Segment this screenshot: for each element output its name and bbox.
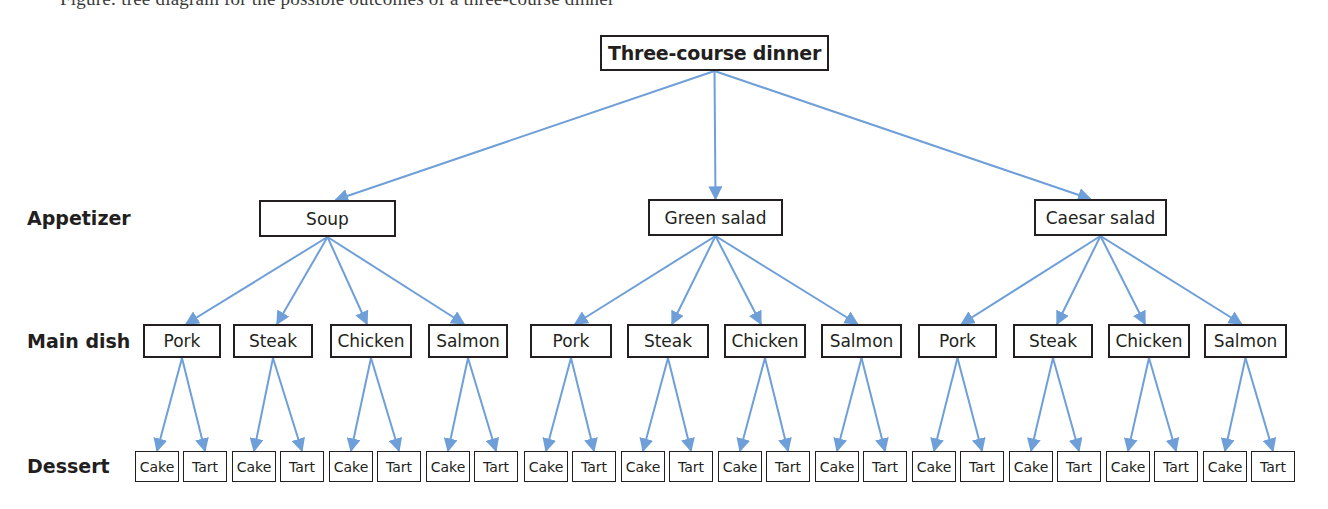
main-dish-node-steak: Steak [627,324,709,358]
dessert-node-tart: Tart [1057,451,1101,482]
appetizer-label: Soup [306,209,349,229]
appetizer-node-caesar-salad: Caesar salad [1034,199,1167,236]
arrow-connector [182,358,205,451]
main-dish-node-pork: Pork [143,324,221,358]
appetizer-node-green-salad: Green salad [648,199,783,236]
dessert-label: Tart [192,459,218,475]
arrow-connector [468,358,496,451]
arrow-connector [1101,236,1146,324]
dessert-label: Cake [820,459,855,475]
dessert-label: Cake [529,459,564,475]
arrow-connector [571,358,594,451]
arrow-connector [273,358,302,451]
arrow-connector [715,71,1091,199]
dessert-label: Tart [1163,459,1189,475]
arrow-connector [862,358,886,451]
arrow-connector [336,71,715,200]
dessert-label: Tart [872,459,898,475]
arrow-connector [962,236,1101,324]
main-dish-label: Chicken [1115,331,1182,351]
dessert-node-tart: Tart [863,451,907,482]
dessert-node-cake: Cake [621,451,665,482]
dessert-node-cake: Cake [135,451,179,482]
main-dish-label: Chicken [337,331,404,351]
appetizer-label: Caesar salad [1046,208,1156,228]
arrow-connector [1225,358,1246,451]
dessert-label: Tart [969,459,995,475]
arrow-connector [575,236,716,324]
dessert-label: Tart [678,459,704,475]
dessert-label: Cake [334,459,369,475]
main-dish-node-pork: Pork [530,324,612,358]
main-dish-label: Steak [1029,331,1077,351]
arrow-connectors [157,71,1273,451]
dessert-label: Cake [1208,459,1243,475]
arrow-connector [715,71,716,199]
arrow-connector [448,358,468,451]
main-dish-label: Chicken [731,331,798,351]
root-label: Three-course dinner [608,42,821,64]
arrow-connector [1031,358,1053,451]
appetizer-node-soup: Soup [259,200,396,237]
main-dish-label: Pork [939,331,976,351]
level-label-main-dish: Main dish [27,330,130,352]
main-dish-label: Salmon [830,331,894,351]
arrow-connector [254,358,273,451]
arrow-connector [157,358,182,451]
main-dish-label: Steak [249,331,297,351]
dessert-label: Cake [1111,459,1146,475]
main-dish-node-pork: Pork [918,324,997,358]
dessert-node-cake: Cake [524,451,568,482]
root-node-three-course-dinner: Three-course dinner [600,35,829,71]
arrow-connector [716,236,762,324]
dessert-label: Tart [581,459,607,475]
dessert-node-cake: Cake [232,451,276,482]
arrow-connector [277,237,328,324]
dessert-node-tart: Tart [766,451,810,482]
dessert-node-cake: Cake [1106,451,1150,482]
level-label-appetizer: Appetizer [27,207,131,229]
appetizer-label: Green salad [664,208,766,228]
arrow-connector [672,236,716,324]
dessert-label: Tart [1066,459,1092,475]
main-dish-label: Steak [644,331,692,351]
arrow-connector [643,358,668,451]
cutoff-caption-text: Figure: tree diagram for the possible ou… [60,0,614,10]
dessert-label: Cake [1014,459,1049,475]
dessert-node-cake: Cake [426,451,470,482]
arrow-connector [765,358,788,451]
main-dish-node-steak: Steak [1013,324,1093,358]
dessert-label: Cake [626,459,661,475]
arrow-connector [1149,358,1176,451]
dessert-node-cake: Cake [815,451,859,482]
dessert-node-tart: Tart [669,451,713,482]
dessert-label: Cake [431,459,466,475]
dessert-node-tart: Tart [474,451,518,482]
tree-edges [0,0,1328,509]
dessert-node-tart: Tart [572,451,616,482]
arrow-connector [740,358,765,451]
arrow-connector [1057,236,1101,324]
arrow-connector [328,237,465,324]
dessert-label: Cake [237,459,272,475]
dessert-node-cake: Cake [718,451,762,482]
level-label-dessert: Dessert [27,455,110,477]
arrow-connector [1246,358,1274,451]
arrow-connector [934,358,958,451]
dessert-node-tart: Tart [377,451,421,482]
dessert-label: Cake [140,459,175,475]
dessert-node-cake: Cake [1203,451,1247,482]
main-dish-node-salmon: Salmon [821,324,902,358]
dessert-node-cake: Cake [1009,451,1053,482]
arrow-connector [546,358,571,451]
main-dish-label: Salmon [436,331,500,351]
dessert-label: Tart [289,459,315,475]
main-dish-label: Pork [164,331,201,351]
dessert-label: Cake [917,459,952,475]
arrow-connector [837,358,862,451]
dessert-node-tart: Tart [960,451,1004,482]
main-dish-node-chicken: Chicken [330,324,412,358]
dessert-node-cake: Cake [912,451,956,482]
dessert-node-tart: Tart [1251,451,1295,482]
arrow-connector [1101,236,1242,324]
